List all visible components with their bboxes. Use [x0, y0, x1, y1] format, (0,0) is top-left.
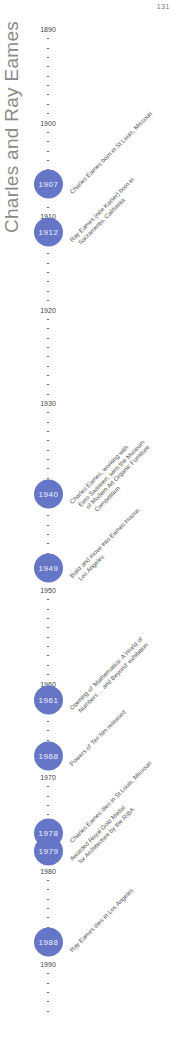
year-tick	[47, 468, 49, 469]
event-year-bubble: 1940	[34, 480, 63, 509]
year-tick	[47, 57, 49, 58]
year-tick	[47, 141, 49, 142]
year-tick	[47, 291, 49, 292]
year-tick	[47, 38, 49, 39]
year-tick	[47, 515, 49, 516]
year-tick	[47, 983, 49, 984]
year-tick	[47, 328, 49, 329]
year-tick	[47, 459, 49, 460]
year-tick	[47, 440, 49, 441]
year-tick	[47, 805, 49, 806]
decade-label: 1890	[36, 26, 60, 33]
year-tick	[47, 253, 49, 254]
event-description: Charles Eames born in St Louis, Missouri	[68, 110, 154, 196]
year-tick	[47, 48, 49, 49]
year-tick	[47, 151, 49, 152]
year-tick	[47, 272, 49, 273]
year-tick	[47, 525, 49, 526]
year-tick	[47, 880, 49, 881]
year-tick	[47, 899, 49, 900]
year-tick	[47, 609, 49, 610]
year-tick	[47, 281, 49, 282]
year-tick	[47, 674, 49, 675]
year-tick	[47, 796, 49, 797]
year-tick	[47, 85, 49, 86]
year-tick	[47, 104, 49, 105]
event-description: Build and move into Eames House,Los Ange…	[68, 506, 147, 585]
year-tick	[47, 366, 49, 367]
year-tick	[47, 1001, 49, 1002]
year-tick	[47, 263, 49, 264]
year-tick	[47, 347, 49, 348]
year-tick	[47, 431, 49, 432]
year-tick	[47, 992, 49, 993]
decade-label: 1950	[36, 587, 60, 594]
year-tick	[47, 721, 49, 722]
year-tick	[47, 599, 49, 600]
year-tick	[47, 338, 49, 339]
year-tick	[47, 132, 49, 133]
year-tick	[47, 618, 49, 619]
year-tick	[47, 917, 49, 918]
year-tick	[47, 76, 49, 77]
year-tick	[47, 730, 49, 731]
year-tick	[47, 356, 49, 357]
year-tick	[47, 627, 49, 628]
decade-label: 1920	[36, 306, 60, 313]
decade-label: 1990	[36, 961, 60, 968]
year-tick	[47, 160, 49, 161]
decade-label: 1980	[36, 867, 60, 874]
year-tick	[47, 973, 49, 974]
decade-label: 1930	[36, 400, 60, 407]
event-year-bubble: 1961	[34, 686, 63, 715]
year-tick	[47, 450, 49, 451]
year-tick	[47, 113, 49, 114]
event-year-bubble: 1949	[34, 554, 63, 583]
year-tick	[47, 908, 49, 909]
decade-label: 1900	[36, 119, 60, 126]
event-description: Opening of 'Mathematica: A World ofNumbe…	[68, 635, 150, 717]
event-year-bubble: 1968	[34, 742, 63, 771]
year-tick	[47, 646, 49, 647]
year-tick	[47, 375, 49, 376]
year-tick	[47, 94, 49, 95]
year-tick	[47, 889, 49, 890]
year-tick	[47, 394, 49, 395]
event-year-bubble: 1979	[34, 837, 63, 866]
year-tick	[47, 422, 49, 423]
event-description: Charles Eames, working withEero Saarinen…	[68, 433, 157, 522]
year-tick	[47, 543, 49, 544]
year-tick	[47, 300, 49, 301]
year-tick	[47, 319, 49, 320]
year-tick	[47, 786, 49, 787]
event-year-bubble: 1988	[34, 928, 63, 957]
year-tick	[47, 412, 49, 413]
year-tick	[47, 665, 49, 666]
year-tick	[47, 66, 49, 67]
event-description: Powers of Ten film released	[68, 708, 127, 767]
year-tick	[47, 1011, 49, 1012]
event-year-bubble: 1907	[34, 170, 63, 199]
decade-label: 1970	[36, 774, 60, 781]
timeline: 1890190019101920193019401950196019701980…	[0, 0, 188, 1040]
year-tick	[47, 637, 49, 638]
year-tick	[47, 534, 49, 535]
year-tick	[47, 814, 49, 815]
event-description: Ray Eames dies in Los Angeles	[68, 886, 135, 953]
year-tick	[47, 655, 49, 656]
event-year-bubble: 1912	[34, 218, 63, 247]
year-tick	[47, 384, 49, 385]
year-tick	[47, 207, 49, 208]
